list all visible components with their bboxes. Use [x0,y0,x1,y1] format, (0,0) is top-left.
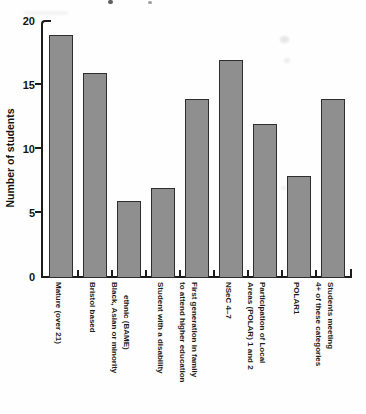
x-axis-tick [247,270,249,276]
y-tick-label: 10 [11,142,35,156]
category-label-line: Student with a disability [155,282,165,374]
y-tick-label: 20 [11,14,35,28]
y-axis-title: Number of students [3,107,17,209]
x-axis-tick [145,270,147,276]
bar-student-with-a-disability [151,188,175,278]
y-axis-tick [35,83,43,85]
x-axis-tick [77,270,79,276]
y-axis-tick [35,147,43,149]
bar-bristol-based [83,73,107,278]
category-label-line: 4+ of these categories [313,282,323,366]
y-tick-label: 15 [11,78,35,92]
scan-artifact [284,58,290,63]
category-label-line: POLAR1 [291,282,301,314]
y-axis-tick [35,211,43,213]
category-label-line: ethnic (BAME) [121,295,131,350]
bar-polar1 [287,176,311,278]
x-axis-tick [315,270,317,276]
bar-students-meeting-4-of-these-categories [321,99,345,278]
category-label-line: to attend higher education [177,282,187,382]
category-label-line: Mature (over 21) [53,282,63,344]
category-label-line: Areas (POLAR) 1 and 2 [245,282,255,370]
category-label-line: Black, Asian or minority [109,282,119,373]
category-label-line: Bristol based [87,282,97,333]
x-axis-tick [111,270,113,276]
category-label-line: First generation in family [189,282,199,377]
y-tick-label: 0 [11,270,35,284]
scan-artifact [148,1,152,4]
x-axis-tick [213,270,215,276]
category-label-line: NSeC 4–7 [223,282,233,319]
x-axis-end-tick [350,269,352,276]
scan-artifact [280,36,289,43]
scan-artifact [108,0,113,4]
x-axis-tick [281,270,283,276]
bar-black-asian-or-minority-ethnic-bame [117,201,141,278]
bar-nsec-4-7 [219,60,243,278]
category-label-line: Students meeting [325,282,335,349]
bar-chart-figure: Number of students 05101520Mature (over … [0,0,366,414]
category-label-line: Participation of Local [257,282,267,363]
bar-first-generation-in-family-to-attend-higher-education [185,99,209,278]
y-tick-label: 5 [11,206,35,220]
scan-artifact [281,186,286,190]
bar-participation-of-local-areas-polar-1-and-2 [253,124,277,278]
x-axis-tick [179,270,181,276]
scanned-page: { "chart_data": { "type": "bar", "title"… [0,0,366,414]
bar-mature-over-21 [49,35,73,278]
